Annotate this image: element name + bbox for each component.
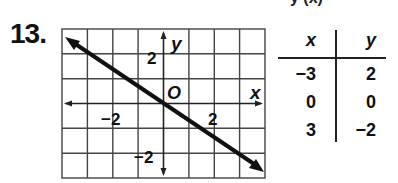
tick-label-x-neg-2: −2: [101, 110, 120, 129]
tick-label-y-neg-2: −2: [134, 148, 153, 167]
xy-table: x y −3 2 0 0 3 −2: [278, 26, 386, 146]
line-arrow-upper-left-icon: [65, 37, 80, 50]
table-header-y: y: [336, 30, 376, 51]
x-axis-left-arrow-icon: [64, 101, 72, 107]
table-header-x: x: [278, 30, 316, 51]
graphed-line: [74, 43, 257, 166]
tick-label-y-pos-2: 2: [147, 49, 156, 68]
table-cell-y: 0: [336, 92, 376, 113]
y-axis-down-arrow-icon: [161, 168, 167, 176]
table-cell-x: 3: [278, 120, 316, 141]
table-cell-x: −3: [278, 64, 316, 85]
y-axis-up-arrow-icon: [161, 31, 167, 39]
table-cell-y: −2: [336, 120, 376, 141]
table-cell-y: 2: [336, 64, 376, 85]
table-cell-x: 0: [278, 92, 316, 113]
origin-label: O: [167, 83, 181, 103]
x-axis-label: x: [249, 82, 262, 103]
tick-label-x-pos-2: 2: [208, 110, 217, 129]
table-header-divider: [278, 57, 386, 59]
y-axis-label: y: [170, 33, 183, 54]
